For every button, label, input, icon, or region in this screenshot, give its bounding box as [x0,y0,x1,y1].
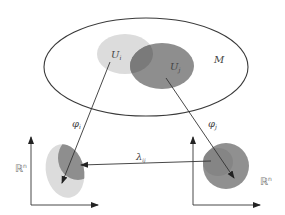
label-manifold: M [213,54,225,65]
label-lambda-ij: λij [135,151,146,164]
map-lambda-ij-arrow [81,161,211,165]
label-phi-j: φj [208,118,217,131]
label-rn-right: ℝn [260,175,272,187]
label-rn-left: ℝn [15,162,27,174]
label-phi-i: φi [72,118,81,130]
manifold-chart-diagram: Ui Uj M φi φj λij ℝn ℝn [0,0,285,215]
map-phi-j-arrow [166,78,234,178]
image-overlap-right [203,148,233,176]
